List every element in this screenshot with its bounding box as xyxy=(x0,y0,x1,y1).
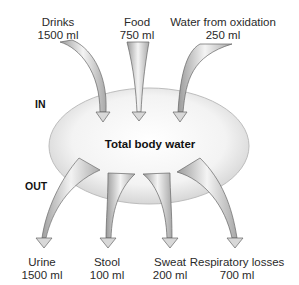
output-label-respiratory: Respiratory losses 700 ml xyxy=(190,256,285,282)
input-name: Water from oxidation xyxy=(170,16,276,29)
input-name: Drinks xyxy=(38,16,79,29)
output-amount: 100 ml xyxy=(90,269,125,282)
input-amount: 750 ml xyxy=(120,29,155,42)
total-body-water-label: Total body water xyxy=(105,138,196,150)
out-section-label: OUT xyxy=(25,180,47,192)
input-label-drinks: Drinks 1500 ml xyxy=(38,16,79,42)
output-label-urine: Urine 1500 ml xyxy=(22,256,63,282)
output-name: Stool xyxy=(90,256,125,269)
input-amount: 250 ml xyxy=(170,29,276,42)
output-name: Respiratory losses xyxy=(190,256,285,269)
output-label-stool: Stool 100 ml xyxy=(90,256,125,282)
in-section-label: IN xyxy=(35,98,46,110)
output-label-sweat: Sweat 200 ml xyxy=(153,256,188,282)
output-amount: 200 ml xyxy=(153,269,188,282)
input-amount: 1500 ml xyxy=(38,29,79,42)
output-name: Sweat xyxy=(153,256,188,269)
output-amount: 700 ml xyxy=(190,269,285,282)
output-name: Urine xyxy=(22,256,63,269)
water-balance-diagram: Drinks 1500 ml Food 750 ml Water from ox… xyxy=(0,0,299,285)
input-label-oxidation: Water from oxidation 250 ml xyxy=(170,16,276,42)
output-amount: 1500 ml xyxy=(22,269,63,282)
input-label-food: Food 750 ml xyxy=(120,16,155,42)
input-name: Food xyxy=(120,16,155,29)
